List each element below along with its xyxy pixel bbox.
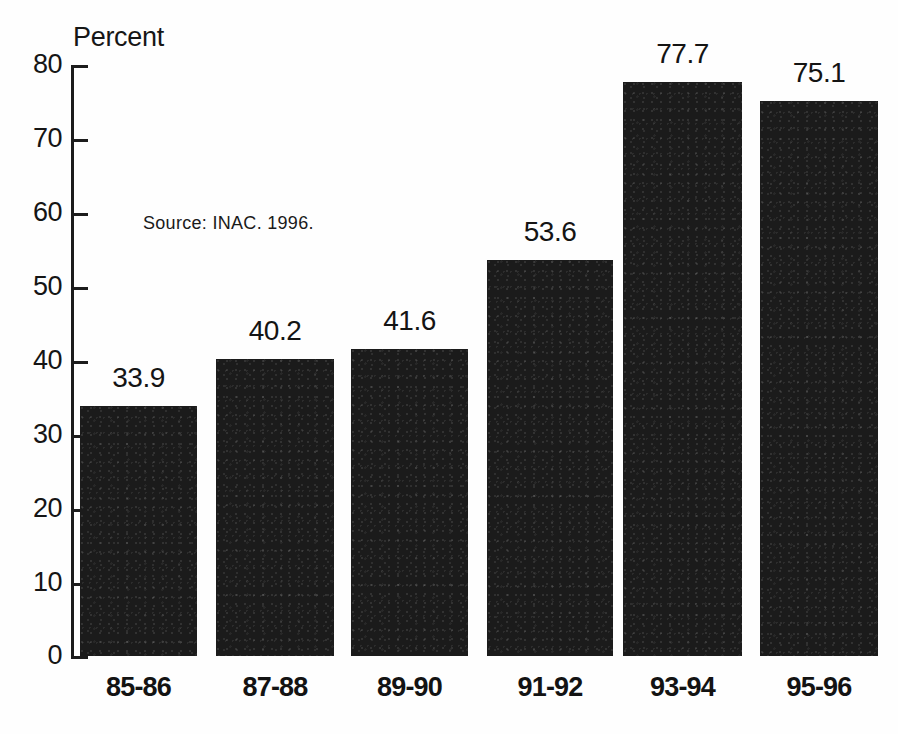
y-tick-70	[71, 139, 88, 142]
y-tick-label-50: 50	[10, 273, 62, 300]
y-tick-label-70-wrap: 70	[0, 125, 62, 152]
bar-value-87-88: 40.2	[216, 317, 334, 345]
x-category-label-85-86: 85-86	[80, 672, 197, 702]
y-tick-label-0-wrap: 0	[0, 642, 62, 669]
source-note: Source: INAC. 1996.	[143, 212, 314, 234]
y-tick-label-0: 0	[10, 642, 62, 669]
bar-91-92	[487, 260, 613, 656]
x-category-label-89-90: 89-90	[351, 672, 468, 702]
y-tick-0	[71, 656, 88, 659]
bar-value-89-90: 41.6	[351, 307, 468, 335]
y-tick-60	[71, 213, 88, 216]
y-tick-label-80-wrap: 80	[0, 51, 62, 78]
x-category-label-91-92: 91-92	[487, 672, 613, 702]
y-tick-label-40-wrap: 40	[0, 347, 62, 374]
y-tick-label-60: 60	[10, 199, 62, 226]
y-tick-label-60-wrap: 60	[0, 199, 62, 226]
y-tick-label-70: 70	[10, 125, 62, 152]
y-tick-label-30: 30	[10, 421, 62, 448]
bar-value-91-92: 53.6	[487, 218, 613, 246]
y-tick-label-10-wrap: 10	[0, 569, 62, 596]
y-tick-80	[71, 65, 88, 68]
y-tick-label-80: 80	[10, 51, 62, 78]
y-tick-50	[71, 287, 88, 290]
y-tick-label-40: 40	[10, 347, 62, 374]
bar-value-93-94: 77.7	[623, 40, 742, 68]
bar-89-90	[351, 349, 468, 656]
bar-value-85-86: 33.9	[80, 364, 197, 392]
y-tick-label-10: 10	[10, 569, 62, 596]
y-tick-label-50-wrap: 50	[0, 273, 62, 300]
x-category-label-93-94: 93-94	[623, 672, 742, 702]
x-category-label-87-88: 87-88	[216, 672, 334, 702]
bar-85-86	[80, 406, 197, 656]
plot-area: 80 70 60 50 40 30 20 10 0 Percent Source…	[0, 0, 898, 734]
bar-93-94	[623, 82, 742, 656]
bar-87-88	[216, 359, 334, 656]
bar-value-95-96: 75.1	[760, 59, 878, 87]
y-tick-label-30-wrap: 30	[0, 421, 62, 448]
x-category-label-95-96: 95-96	[760, 672, 878, 702]
y-tick-label-20-wrap: 20	[0, 495, 62, 522]
bar-chart: 80 70 60 50 40 30 20 10 0 Percent Source…	[0, 0, 898, 734]
y-axis-title: Percent	[73, 22, 164, 52]
bar-95-96	[760, 101, 878, 656]
y-tick-label-20: 20	[10, 495, 62, 522]
